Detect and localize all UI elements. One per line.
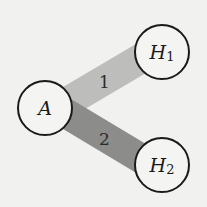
graph-svg: 1 2 A H1 H2 [0, 0, 207, 207]
edge-label-1: 1 [99, 72, 110, 92]
edge-label-2: 2 [99, 129, 110, 149]
node-h2: H2 [135, 138, 189, 192]
node-h1: H1 [135, 25, 189, 79]
node-a-label: A [36, 97, 52, 119]
node-a: A [18, 81, 72, 135]
diagram-canvas: 1 2 A H1 H2 [0, 0, 207, 207]
